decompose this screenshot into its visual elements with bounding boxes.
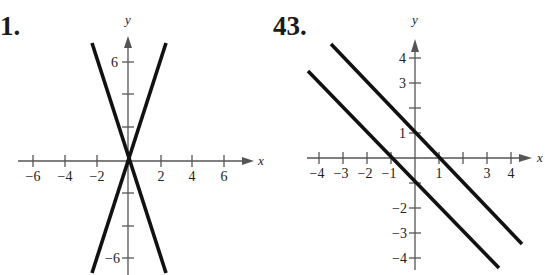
graph-1-plot: −6 −4 −2 2 4 6 6 −6 x y [0,0,270,275]
x-tick-label: −2 [358,166,373,181]
y-axis-arrow-icon [411,39,419,52]
x-tick-label: −6 [26,169,41,184]
x-tick-label: 1 [436,166,443,181]
graph-43-plot: −4 −3 −2 −1 1 3 4 4 3 1 −2 −3 −4 x y [270,0,545,275]
y-axis-label: y [410,12,418,27]
y-tick-label: −3 [392,226,407,241]
x-axis-label: x [536,150,543,165]
y-axis-label: y [123,12,131,27]
y-tick-label: −2 [392,201,407,216]
y-tick-label: −4 [392,251,407,266]
graph-panel-1: 1. −6 −4 −2 2 4 6 6 [0,0,270,275]
y-tick-label: −6 [105,251,120,266]
x-axis-arrow-icon [242,157,254,165]
x-tick-label: 4 [189,169,196,184]
graph-panel-43: 43. −4 −3 [270,0,545,275]
x-tick-label: 3 [484,166,491,181]
x-axis-arrow-icon [519,154,532,162]
y-tick-label: 6 [111,55,118,70]
x-axis-label: x [257,153,264,168]
line-y-equals-neg-x-plus-1 [331,44,522,244]
x-tick-label: −1 [382,166,397,181]
y-axis-arrow-icon [124,36,132,48]
x-tick-label: 2 [158,169,165,184]
y-tick-label: 4 [399,51,406,66]
x-tick-label: 6 [221,169,228,184]
x-tick-label: −2 [90,169,105,184]
y-tick-label: 3 [399,76,406,91]
x-tick-label: −4 [58,169,73,184]
x-tick-label: −3 [334,166,349,181]
y-tick-label: 1 [399,126,406,141]
x-tick-label: 4 [508,166,515,181]
x-tick-label: −4 [310,166,325,181]
